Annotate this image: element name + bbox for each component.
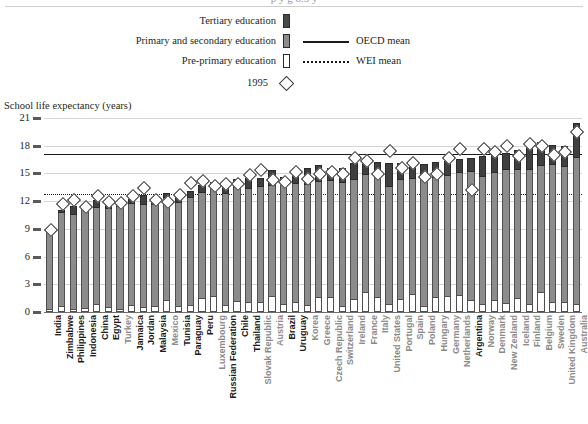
bar-norway[interactable] — [479, 156, 486, 312]
bar-jamaica[interactable] — [128, 199, 135, 312]
segment-tertiary — [502, 153, 509, 170]
segment-preprimary — [187, 305, 194, 312]
bar-australia[interactable] — [573, 123, 580, 312]
segment-preprimary — [432, 297, 439, 312]
segment-primary-secondary — [198, 193, 205, 298]
segment-preprimary — [374, 297, 381, 312]
bar-malaysia[interactable] — [151, 198, 158, 312]
bar-sweden[interactable] — [549, 145, 556, 312]
x-axis-label-united-kingdom: United Kingdom — [568, 315, 577, 385]
bar-iceland[interactable] — [514, 150, 521, 312]
bar-hungary[interactable] — [432, 162, 439, 312]
legend-label-tertiary: Tertiary education — [199, 14, 276, 28]
x-axis-labels: IndiaZimbabwePhilippinesIndonesiaChinaEg… — [44, 315, 582, 420]
bar-poland[interactable] — [420, 164, 427, 312]
bar-czech-republic[interactable] — [327, 168, 334, 312]
x-axis-label-mexico: Mexico — [171, 315, 180, 346]
segment-primary-secondary — [46, 231, 53, 310]
segment-preprimary — [456, 295, 463, 312]
x-axis-label-hungary: Hungary — [440, 315, 449, 352]
x-axis-label-new-zealand: New Zealand — [510, 315, 519, 370]
segment-preprimary — [58, 306, 65, 312]
bar-denmark[interactable] — [491, 154, 498, 312]
bar-philippines[interactable] — [70, 206, 77, 312]
bar-argentina[interactable] — [467, 158, 474, 312]
bar-greece[interactable] — [315, 165, 322, 312]
segment-tertiary — [350, 163, 357, 180]
x-axis-baseline — [44, 312, 582, 313]
bar-united-kingdom[interactable] — [561, 146, 568, 312]
bar-paraguay[interactable] — [187, 191, 194, 312]
bar-chile[interactable] — [233, 179, 240, 312]
segment-tertiary — [58, 210, 65, 213]
segment-tertiary — [385, 163, 392, 187]
segment-primary-secondary — [456, 173, 463, 295]
bar-netherlands[interactable] — [456, 159, 463, 312]
segment-primary-secondary — [175, 203, 182, 306]
bar-new-zealand[interactable] — [502, 153, 509, 312]
bar-indonesia[interactable] — [81, 208, 88, 312]
segment-primary-secondary — [233, 188, 240, 301]
gridline — [44, 229, 582, 230]
segment-primary-secondary — [187, 198, 194, 304]
bar-tunisia[interactable] — [175, 195, 182, 312]
bar-finland[interactable] — [526, 146, 533, 312]
bar-germany[interactable] — [444, 161, 451, 313]
x-axis-label-zimbabwe: Zimbabwe — [66, 315, 75, 359]
bar-zimbabwe[interactable] — [58, 210, 65, 312]
bar-united-states[interactable] — [385, 163, 392, 312]
bar-jordan[interactable] — [140, 195, 147, 312]
x-axis-label-czech-republic: Czech Republic — [335, 315, 344, 382]
bar-slovak-republic[interactable] — [257, 178, 264, 312]
x-axis-label-brazil: Brazil — [288, 315, 297, 340]
bar-egypt[interactable] — [105, 199, 112, 312]
bar-uruguay[interactable] — [292, 173, 299, 312]
bar-korea[interactable] — [304, 168, 311, 312]
y-axis-tick-label: 18 — [8, 141, 30, 151]
segment-preprimary — [409, 294, 416, 312]
segment-preprimary — [362, 292, 369, 312]
segment-primary-secondary — [491, 173, 498, 300]
y-axis-tick — [33, 228, 41, 231]
x-axis-label-denmark: Denmark — [498, 315, 507, 354]
segment-primary-secondary — [280, 183, 287, 304]
bar-russian-federation[interactable] — [222, 185, 229, 312]
bar-spain[interactable] — [409, 161, 416, 313]
y-axis-tick — [33, 117, 41, 120]
bar-india[interactable] — [46, 229, 53, 312]
segment-preprimary — [315, 297, 322, 312]
x-axis-label-belgium: Belgium — [545, 315, 554, 351]
segment-primary-secondary — [362, 175, 369, 291]
segment-preprimary — [491, 300, 498, 312]
segment-preprimary — [467, 300, 474, 312]
segment-tertiary — [467, 158, 474, 172]
segment-preprimary — [151, 306, 158, 312]
bar-thailand[interactable] — [245, 178, 252, 312]
marker-1995 — [500, 139, 514, 153]
segment-preprimary — [502, 303, 509, 312]
bar-china[interactable] — [93, 200, 100, 312]
bar-brazil[interactable] — [280, 177, 287, 312]
segment-tertiary — [456, 159, 463, 174]
oecd-mean-line — [44, 154, 582, 155]
bar-mexico[interactable] — [163, 193, 170, 312]
bar-portugal[interactable] — [397, 163, 404, 312]
title-divider — [5, 6, 583, 7]
y-axis-tick-label: 21 — [8, 113, 30, 123]
segment-tertiary — [257, 178, 264, 187]
x-axis-label-malaysia: Malaysia — [159, 315, 168, 353]
bar-france[interactable] — [362, 159, 369, 312]
bar-turkey[interactable] — [116, 202, 123, 312]
x-axis-label-china: China — [101, 315, 110, 340]
bar-italy[interactable] — [374, 162, 381, 312]
bar-switzerland[interactable] — [339, 168, 346, 312]
segment-preprimary — [163, 300, 170, 312]
bar-austria[interactable] — [268, 170, 275, 312]
gridline — [44, 118, 582, 119]
bar-ireland[interactable] — [350, 163, 357, 312]
segment-preprimary — [537, 292, 544, 312]
bar-peru[interactable] — [198, 185, 205, 312]
tertiary-swatch-icon — [283, 14, 290, 28]
bar-belgium[interactable] — [537, 142, 544, 312]
bar-luxembourg[interactable] — [210, 182, 217, 312]
